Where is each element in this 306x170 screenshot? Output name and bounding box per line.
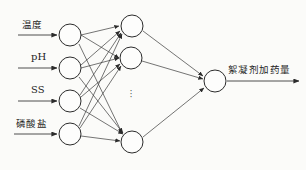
- output-nodes: [204, 70, 226, 92]
- output-label-flocculant-dosage: 絮凝剂加药量: [228, 65, 290, 75]
- edge-in3-hid1: [80, 33, 121, 95]
- input-node-4: [59, 123, 81, 145]
- hidden-nodes: [120, 15, 143, 153]
- edge-hid2-out: [142, 61, 203, 79]
- edge-in2-hid3: [79, 77, 123, 133]
- input-to-hidden-edges: [79, 26, 123, 141]
- input-node-2: [59, 57, 81, 79]
- input-label-ss: SS: [31, 85, 45, 95]
- hidden-to-output-edges: [142, 31, 204, 137]
- output-node-1: [204, 70, 226, 92]
- input-label-ph: pH: [31, 52, 46, 62]
- hidden-node-3: [121, 131, 143, 153]
- input-label-temperature: 温度: [22, 20, 43, 30]
- edge-in1-hid1: [81, 26, 119, 35]
- input-nodes: [59, 24, 81, 145]
- edge-in1-hid2: [81, 35, 119, 58]
- edge-in2-hid1: [81, 31, 120, 65]
- ellipsis-dot-3: ·: [126, 96, 136, 99]
- hidden-node-2: [120, 47, 142, 69]
- input-label-phosphate: 磷酸盐: [16, 119, 47, 129]
- input-node-3: [59, 90, 81, 112]
- neural-network-diagram: 温度 pH SS 磷酸盐 絮凝剂加药量 · · ·: [0, 0, 306, 170]
- edge-in4-hid3: [81, 136, 120, 141]
- edge-hid3-out: [143, 88, 204, 137]
- edge-hid1-out: [143, 31, 203, 76]
- hidden-node-1: [121, 15, 143, 37]
- hidden-layer-ellipsis-icon: · · ·: [126, 90, 136, 100]
- network-graphic: [0, 0, 306, 170]
- input-node-1: [59, 24, 81, 46]
